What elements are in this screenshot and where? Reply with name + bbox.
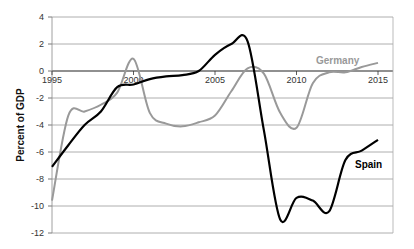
y-tick-label: -12 bbox=[31, 228, 44, 238]
x-tick-label: 2015 bbox=[368, 75, 388, 85]
x-tick-label: 1995 bbox=[42, 75, 62, 85]
chart: 420-2-4-6-8-10-12 19952000200520102015 P… bbox=[0, 0, 414, 249]
x-tick-label: 2005 bbox=[205, 75, 225, 85]
germany-label: Germany bbox=[316, 55, 360, 66]
y-tick-label: 2 bbox=[39, 39, 44, 49]
x-tick-label: 2010 bbox=[286, 75, 306, 85]
y-tick-label: -8 bbox=[36, 174, 44, 184]
y-tick-label: -4 bbox=[36, 120, 44, 130]
y-tick-label: -6 bbox=[36, 147, 44, 157]
y-tick-label: -10 bbox=[31, 201, 44, 211]
y-axis-label: Percent of GDP bbox=[15, 88, 26, 162]
x-axis: 19952000200520102015 bbox=[42, 71, 388, 85]
y-tick-label: 4 bbox=[39, 12, 44, 22]
y-tick-label: -2 bbox=[36, 93, 44, 103]
spain-label: Spain bbox=[355, 159, 382, 170]
